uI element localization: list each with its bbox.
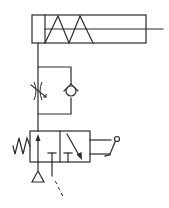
roller-icon <box>115 137 120 142</box>
bypass-bottom <box>38 98 71 114</box>
arrow-up-icon <box>36 134 41 141</box>
bypass-top <box>38 67 71 84</box>
exhaust-dash-2 <box>58 187 60 190</box>
throttle-right-arc <box>40 82 42 100</box>
exhaust-dash-1 <box>55 181 57 184</box>
exhaust-dash-3 <box>61 193 63 196</box>
pneumatic-circuit-diagram: Single-acting cylinder, spring return On… <box>0 0 169 208</box>
return-spring-icon <box>13 138 30 154</box>
lever-foot <box>105 155 110 156</box>
directional-control-valve <box>13 131 120 162</box>
throttle-left-arc <box>34 82 36 100</box>
pressure-source-icon <box>32 171 44 182</box>
check-valve-ball-icon <box>66 86 76 96</box>
single-acting-cylinder <box>32 15 163 43</box>
lever-arm <box>110 142 115 154</box>
